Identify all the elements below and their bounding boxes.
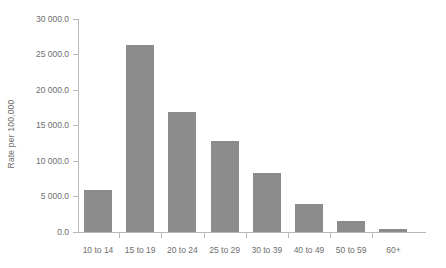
bar (295, 204, 323, 232)
x-axis-tick-mark (330, 233, 331, 238)
y-axis-tick-label: 5 000.0 (41, 192, 69, 201)
bar-chart: Rate per 100,000 0.05 000.010 000.015 00… (0, 0, 446, 268)
x-axis-tick-mark (204, 233, 205, 238)
x-axis-tick-mark (246, 233, 247, 238)
bar (337, 221, 365, 232)
bar (168, 112, 196, 232)
x-axis-tick-mark (288, 233, 289, 238)
y-axis-tick-label: 20 000.0 (36, 85, 69, 94)
x-axis-tick-mark (161, 233, 162, 238)
bars-layer (78, 19, 425, 232)
y-axis-title: Rate per 100,000 (0, 0, 22, 268)
x-axis-label: 60+ (358, 245, 428, 255)
x-axis-tick-mark (119, 233, 120, 238)
bar (126, 45, 154, 232)
y-axis-tick-label: 10 000.0 (36, 156, 69, 165)
y-axis-tick-label: 25 000.0 (36, 50, 69, 59)
bar (379, 229, 407, 232)
x-axis-tick-mark (372, 233, 373, 238)
bar (211, 141, 239, 232)
y-axis-tick-label: 30 000.0 (36, 14, 69, 23)
x-axis-line (78, 232, 426, 233)
plot-area: 0.05 000.010 000.015 000.020 000.025 000… (78, 19, 425, 232)
bar (253, 173, 281, 232)
bar (84, 190, 112, 232)
y-axis-tick-label: 0.0 (57, 227, 69, 236)
y-axis-tick-label: 15 000.0 (36, 121, 69, 130)
